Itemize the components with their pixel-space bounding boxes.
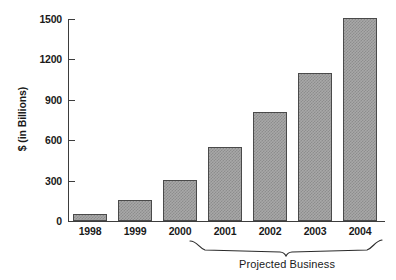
y-tick-label-300: 300: [0, 176, 62, 186]
bar-1998: [73, 214, 107, 221]
y-axis-line: [68, 19, 69, 222]
bar-2000: [163, 180, 197, 221]
projected-business-label: Projected Business: [190, 258, 384, 270]
x-tick-label-1999: 1999: [113, 225, 157, 237]
y-tick-label-1200: 1200: [0, 54, 62, 64]
y-tick-mark-600: [69, 140, 75, 141]
x-tick-label-2004: 2004: [338, 225, 382, 237]
y-tick-mark-300: [69, 181, 75, 182]
bar-1999: [118, 200, 152, 222]
y-tick-mark-900: [69, 100, 75, 101]
y-tick-mark-1500: [69, 19, 75, 20]
bar-2004: [343, 18, 377, 221]
x-axis-line: [68, 221, 385, 222]
x-tick-label-1998: 1998: [68, 225, 112, 237]
x-tick-label-2001: 2001: [203, 225, 247, 237]
y-axis-title: $ (in Billions): [0, 0, 46, 240]
x-tick-label-2002: 2002: [248, 225, 292, 237]
y-tick-mark-1200: [69, 59, 75, 60]
bar-2002: [253, 112, 287, 221]
bar-2003: [298, 73, 332, 221]
bar-chart: $ (in Billions) 1500 1200 900 600 300 0 …: [0, 0, 396, 280]
brace-path: [190, 240, 382, 256]
y-tick-label-600: 600: [0, 135, 62, 145]
y-tick-label-0: 0: [0, 216, 62, 226]
x-tick-label-2003: 2003: [293, 225, 337, 237]
x-tick-label-2000: 2000: [158, 225, 202, 237]
y-tick-label-1500: 1500: [0, 14, 62, 24]
bar-2001: [208, 147, 242, 221]
y-tick-label-900: 900: [0, 95, 62, 105]
y-tick-mark-0: [69, 221, 75, 222]
